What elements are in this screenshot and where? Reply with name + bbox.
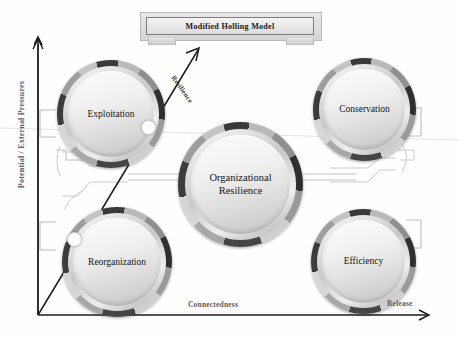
plaque-inner-frame: Modified Holling Model (146, 17, 314, 35)
node-label-center-line1: Organizational (205, 172, 275, 184)
node-face: Organizational Resilience (191, 135, 290, 234)
plaque-tab-right (286, 38, 314, 45)
title-plaque: Modified Holling Model (140, 12, 320, 39)
node-label-efficiency: Efficiency (340, 256, 387, 267)
node-label-center-line2: Resilience (215, 185, 267, 197)
node-face: Reorganization (73, 218, 161, 306)
diagram-title: Modified Holling Model (186, 22, 275, 31)
node-reorganization[interactable]: Reorganization (62, 207, 172, 317)
node-face: Exploitation (68, 71, 154, 157)
plaque-tab-left (148, 38, 176, 45)
y-axis-label: Potential / External Pressures (17, 70, 26, 200)
marker-dot-reorganization (67, 232, 82, 247)
node-label-exploitation: Exploitation (84, 109, 139, 120)
node-label-reorganization: Reorganization (84, 257, 150, 268)
release-label: Release (387, 299, 413, 308)
node-face: Efficiency (322, 220, 405, 303)
node-exploitation[interactable]: Exploitation (57, 60, 165, 168)
node-face: Conservation (324, 69, 405, 150)
node-organizational-resilience[interactable]: Organizational Resilience (178, 122, 303, 247)
node-conservation[interactable]: Conservation (313, 58, 416, 161)
x-axis-label: Connectedness (188, 300, 238, 309)
node-label-conservation: Conservation (335, 104, 394, 115)
marker-dot-exploitation (141, 120, 156, 135)
diagram-canvas: Modified Holling Model Exploitation Cons… (0, 0, 459, 338)
